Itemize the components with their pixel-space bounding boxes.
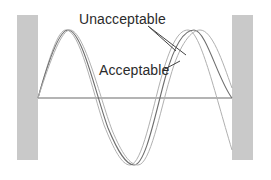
right-pillar [232,15,253,160]
acceptable-label: Acceptable [99,63,169,77]
left-pillar [17,15,38,160]
wave-diagram-svg [0,0,271,180]
unacceptable-label: Unacceptable [79,12,166,26]
standing-wave-diagram: Unacceptable Acceptable [0,0,271,180]
